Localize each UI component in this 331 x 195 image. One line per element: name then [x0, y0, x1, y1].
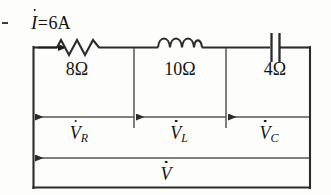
- capacitor-value-label: 4Ω: [245, 60, 305, 78]
- vl-subscript: L: [181, 131, 188, 145]
- v-symbol: V: [161, 165, 172, 183]
- vc-subscript: C: [271, 131, 279, 145]
- vl-base-letter: V: [170, 123, 181, 143]
- resistor-value-label: 8Ω: [47, 60, 107, 78]
- total-voltage-label: V: [146, 165, 186, 183]
- equals-sign: =: [38, 13, 48, 33]
- current-unit: A: [57, 13, 70, 33]
- inductor-symbol: [158, 39, 202, 48]
- phasor-dot-icon: [264, 120, 267, 123]
- vc-base-letter: V: [260, 123, 271, 143]
- vc-symbol: V: [260, 124, 271, 142]
- resistor-voltage-label: VR: [53, 124, 105, 142]
- vr-symbol: V: [70, 124, 81, 142]
- capacitor-voltage-label: VC: [243, 124, 295, 142]
- current-source-label: I=6A: [31, 13, 70, 32]
- vr-subscript: R: [81, 131, 88, 145]
- v-base-letter: V: [161, 164, 172, 184]
- phasor-dot-icon: [165, 161, 168, 164]
- circuit-diagram: I=6A 8Ω 10Ω 4Ω VR VL VC V: [0, 0, 331, 195]
- current-symbol: I: [31, 13, 37, 32]
- phasor-dot-icon: [175, 120, 178, 123]
- vl-symbol: V: [170, 124, 181, 142]
- inductor-voltage-label: VL: [152, 124, 206, 142]
- phasor-dot-icon: [33, 9, 36, 12]
- resistor-symbol: [57, 40, 103, 55]
- margin-tick-artifact: [2, 22, 8, 24]
- vr-base-letter: V: [70, 123, 81, 143]
- current-base-letter: I: [31, 12, 37, 33]
- phasor-dot-icon: [75, 120, 78, 123]
- inductor-value-label: 10Ω: [148, 60, 212, 78]
- capacitor-symbol: [272, 33, 280, 62]
